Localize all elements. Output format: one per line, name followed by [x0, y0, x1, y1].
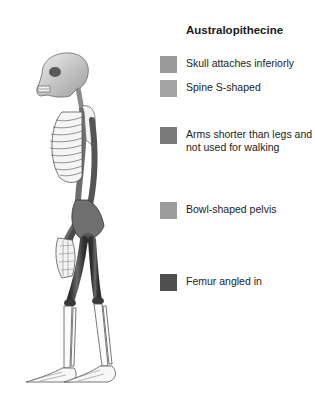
skeleton-illustration — [0, 0, 160, 395]
legend-item-arms: Arms shorter than legs and not used for … — [160, 128, 315, 154]
legend-label: Femur angled in — [186, 275, 315, 288]
legend-label: Spine S-shaped — [186, 81, 315, 94]
legend-label: Arms shorter than legs and not used for … — [186, 128, 315, 154]
legend-title: Australopithecine — [186, 24, 283, 36]
legend-item-skull: Skull attaches inferiorly — [160, 57, 315, 73]
ribcage — [50, 112, 82, 182]
skeleton-figure — [0, 0, 160, 395]
legend-swatch — [160, 202, 177, 219]
legend-swatch — [160, 80, 177, 97]
legend-swatch — [160, 56, 177, 73]
legend-label: Bowl-shaped pelvis — [186, 203, 315, 216]
legend-item-femur: Femur angled in — [160, 275, 315, 291]
legend-item-spine: Spine S-shaped — [160, 81, 315, 97]
lower-leg — [64, 304, 112, 368]
feet — [26, 366, 115, 382]
legend-swatch — [160, 127, 177, 144]
legend-item-pelvis: Bowl-shaped pelvis — [160, 203, 315, 219]
legend-swatch — [160, 274, 177, 291]
legend-label: Skull attaches inferiorly — [186, 57, 315, 70]
cervical-spine — [78, 88, 82, 110]
